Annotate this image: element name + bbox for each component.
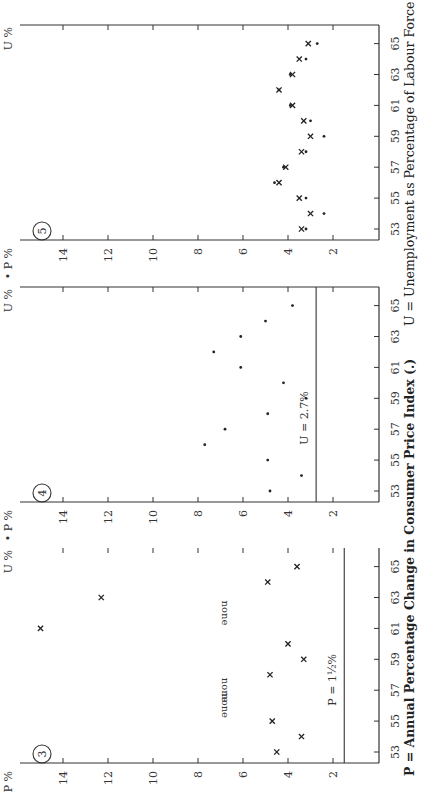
x-marker [285,641,290,646]
year-tick-label: 57 [389,422,402,436]
year-tick-label: 65 [389,560,402,574]
x-marker [99,595,104,600]
year-tick-label: 59 [389,652,402,666]
x-marker [297,56,302,61]
panel-5: 246810121453555759616365• P %U %5 [20,25,379,240]
none-annotation: none [220,678,231,703]
dot-marker [273,181,276,184]
year-tick-label: 61 [389,360,402,374]
p-tick-label: 8 [192,771,205,778]
x-marker [265,579,270,584]
p-tick-label: 14 [57,510,70,524]
dot-marker [289,73,292,76]
panel-4-plot: 246810121453555759616365• P %U %4U = 2.7… [20,287,379,502]
p-axis-label: • P % [2,771,15,796]
x-marker [276,180,281,185]
dot-marker [289,104,292,107]
dot-marker [224,428,227,431]
p-tick-label: 6 [237,248,250,255]
x-marker [274,749,279,754]
x-marker [38,626,43,631]
dot-marker [309,119,312,122]
dot-marker [316,42,319,45]
year-tick-label: 57 [389,160,402,174]
u-axis-label: U % [2,550,15,573]
reference-line-label: U = 2.7% [298,391,311,444]
figure-page: 246810121453555759616365• P %U %3nonenon… [0,0,424,796]
dot-marker [291,304,294,307]
reference-line-label: P = 1½% [326,654,339,706]
x-marker [297,196,302,201]
dot-marker [203,443,206,446]
x-marker [301,657,306,662]
x-marker [308,134,313,139]
dot-marker [266,459,269,462]
year-tick-label: 55 [389,453,402,467]
p-tick-label: 2 [327,248,340,255]
panel-4: 246810121453555759616365• P %U %4U = 2.7… [20,287,379,502]
p-tick-label: 6 [237,510,250,517]
dot-marker [269,490,272,493]
year-tick-label: 65 [389,299,402,313]
p-tick-label: 8 [192,510,205,517]
x-marker [299,226,304,231]
dot-marker [305,150,308,153]
p-tick-label: 4 [282,510,295,517]
year-tick-label: 61 [389,621,402,635]
none-annotation: none [220,601,231,626]
p-tick-label: 14 [57,771,70,785]
p-tick-label: 10 [147,510,160,524]
x-marker [267,672,272,677]
p-tick-label: 10 [147,771,160,785]
year-tick-label: 65 [389,37,402,51]
panel-badge-number: 4 [36,490,49,497]
dot-marker [305,197,308,200]
year-tick-label: 53 [389,484,402,498]
dot-marker [264,320,267,323]
dot-marker [305,228,308,231]
dot-marker [305,58,308,61]
dot-marker [239,366,242,369]
p-tick-label: 2 [327,771,340,778]
x-marker [306,41,311,46]
x-marker [299,149,304,154]
caption-p-definition: P = Annual Percentage Change in Consumer… [402,359,417,776]
panel-3: 246810121453555759616365• P %U %3nonenon… [20,548,379,763]
p-tick-label: 6 [237,771,250,778]
p-tick-label: 2 [327,510,340,517]
p-tick-label: 12 [102,771,115,785]
year-tick-label: 53 [389,745,402,759]
p-axis-label: • P % [2,510,15,541]
u-axis-label: U % [2,27,15,50]
year-tick-label: 63 [389,591,402,605]
u-axis-label: U % [2,289,15,312]
caption-u-definition: U = Unemployment as Percentage of Labour… [402,0,417,326]
p-tick-label: 12 [102,248,115,262]
p-tick-label: 12 [102,510,115,524]
year-tick-label: 55 [389,191,402,205]
p-axis-label: • P % [2,248,15,279]
year-tick-label: 63 [389,68,402,82]
x-marker [299,734,304,739]
dot-marker [282,166,285,169]
year-tick-label: 59 [389,391,402,405]
year-tick-label: 63 [389,330,402,344]
dot-marker [300,474,303,477]
panel-3-plot: 246810121453555759616365• P %U %3nonenon… [20,548,379,763]
p-tick-label: 4 [282,248,295,255]
panel-5-plot: 246810121453555759616365• P %U %5 [20,25,379,240]
dot-marker [305,397,308,400]
year-tick-label: 55 [389,714,402,728]
dot-marker [282,381,285,384]
panel-badge-number: 3 [36,751,49,758]
p-tick-label: 8 [192,248,205,255]
year-tick-label: 57 [389,683,402,697]
dot-marker [212,351,215,354]
dot-marker [323,212,326,215]
dot-marker [239,335,242,338]
x-marker [301,118,306,123]
dot-marker [278,89,281,92]
p-tick-label: 10 [147,248,160,262]
panel-badge-number: 5 [36,228,49,235]
x-marker [294,564,299,569]
